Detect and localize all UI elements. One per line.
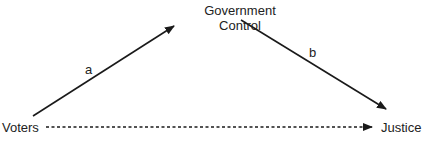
node-government-line2: Control: [194, 18, 286, 33]
edge-b-label: b: [309, 45, 316, 60]
node-government-control: Government Control: [194, 3, 286, 33]
node-justice: Justice: [381, 120, 421, 135]
edge-b-arrow: [241, 20, 386, 109]
node-voters: Voters: [2, 120, 39, 135]
mediation-diagram: Government Control Voters Justice a b: [0, 0, 422, 141]
edge-a-label: a: [85, 62, 92, 77]
node-government-line1: Government: [194, 3, 286, 18]
edge-a-arrow: [33, 26, 174, 116]
